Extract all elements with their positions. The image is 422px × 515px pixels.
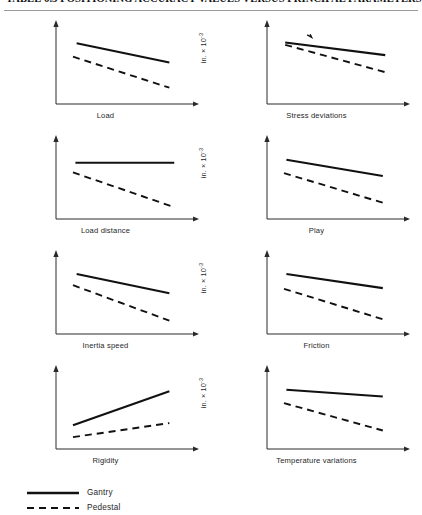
y-axis-arrow-icon	[53, 135, 58, 142]
plot-area	[211, 12, 422, 127]
y-axis-label-exponent: -3	[198, 263, 204, 268]
figure-header: TABLE 6.3 POSITIONING ACCURACY VALUES VE…	[0, 0, 422, 12]
y-axis-label-text: in. × 10	[199, 268, 208, 293]
series-line-gantry	[286, 390, 382, 397]
y-axis-label: in. × 10-3	[199, 20, 208, 76]
plot-area	[0, 127, 211, 242]
x-axis-label: Temperature variations	[211, 456, 422, 465]
series-line-pedestal	[284, 289, 383, 319]
x-axis-label: Friction	[211, 341, 422, 350]
plot-area	[0, 12, 211, 127]
y-axis-arrow-icon	[53, 20, 58, 27]
annotation-mark-icon	[307, 34, 312, 37]
x-axis-label: Load	[0, 111, 211, 120]
y-axis-arrow-icon	[53, 365, 58, 372]
series-line-gantry	[77, 43, 170, 62]
legend-label: Gantry	[87, 488, 113, 497]
chart-panel: in. × 10-3Stress deviations	[211, 12, 422, 127]
series-line-gantry	[73, 391, 169, 425]
x-axis-arrow-icon	[193, 216, 199, 221]
chart-panel: in. × 10-3Rigidity	[0, 357, 211, 472]
x-axis-arrow-icon	[404, 331, 410, 336]
legend-swatch-solid	[27, 486, 79, 500]
legend: GantryPedestal	[27, 486, 227, 515]
series-line-pedestal	[284, 173, 383, 203]
series-line-pedestal	[284, 403, 383, 430]
y-axis-label: in. × 10-3	[199, 135, 208, 191]
page-title: TABLE 6.3 POSITIONING ACCURACY VALUES VE…	[6, 0, 422, 4]
legend-item: Pedestal	[27, 501, 227, 515]
x-axis-arrow-icon	[193, 446, 199, 451]
y-axis-label: in. × 10-3	[199, 250, 208, 306]
chart-panel: in. × 10-3Play	[211, 127, 422, 242]
legend-item: Gantry	[27, 486, 227, 501]
y-axis-arrow-icon	[264, 250, 269, 257]
series-line-gantry	[77, 274, 170, 293]
chart-panel: in. × 10-3Temperature variations	[211, 357, 422, 472]
x-axis-arrow-icon	[193, 331, 199, 336]
y-axis-label-text: in. × 10	[199, 153, 208, 178]
series-line-gantry	[286, 274, 382, 288]
x-axis-arrow-icon	[404, 446, 410, 451]
x-axis-label: Inertia speed	[0, 341, 211, 350]
chart-panel: in. × 10-3Inertia speed	[0, 242, 211, 357]
y-axis-label-exponent: -3	[198, 148, 204, 153]
series-line-pedestal	[73, 57, 169, 88]
y-axis-label: in. × 10-3	[199, 365, 208, 421]
legend-swatch-dashed	[27, 501, 79, 515]
y-axis-arrow-icon	[264, 20, 269, 27]
y-axis-arrow-icon	[53, 250, 58, 257]
header-divider	[4, 10, 418, 11]
x-axis-arrow-icon	[193, 101, 199, 106]
x-axis-label: Stress deviations	[211, 111, 422, 120]
x-axis-arrow-icon	[404, 216, 410, 221]
y-axis-arrow-icon	[264, 365, 269, 372]
series-line-pedestal	[73, 423, 169, 437]
series-line-pedestal	[73, 172, 174, 207]
x-axis-arrow-icon	[404, 101, 410, 106]
panel-grid: in. × 10-3Loadin. × 10-3Stress deviation…	[0, 12, 422, 472]
plot-area	[0, 357, 211, 472]
chart-panel: in. × 10-3Friction	[211, 242, 422, 357]
chart-panel: in. × 10-3Load	[0, 12, 211, 127]
figure-page: { "header": { "title": "TABLE 6.3 POSITI…	[0, 0, 422, 515]
y-axis-label-exponent: -3	[198, 33, 204, 38]
x-axis-label: Load distance	[0, 226, 211, 235]
plot-area	[211, 357, 422, 472]
series-line-gantry	[286, 160, 382, 176]
y-axis-label-exponent: -3	[198, 378, 204, 383]
chart-panel: in. × 10-3Load distance	[0, 127, 211, 242]
x-axis-label: Rigidity	[0, 456, 211, 465]
y-axis-label-text: in. × 10	[199, 38, 208, 63]
legend-label: Pedestal	[87, 503, 120, 512]
plot-area	[211, 242, 422, 357]
y-axis-arrow-icon	[264, 135, 269, 142]
y-axis-label-text: in. × 10	[199, 383, 208, 408]
x-axis-label: Play	[211, 226, 422, 235]
plot-area	[211, 127, 422, 242]
plot-area	[0, 242, 211, 357]
